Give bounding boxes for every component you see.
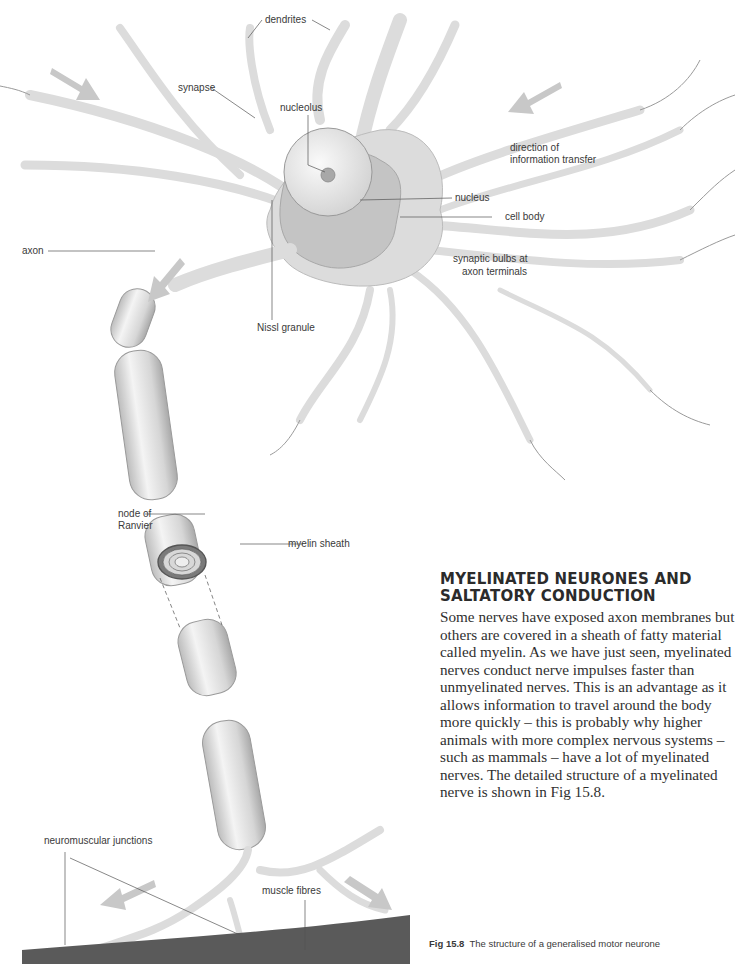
heading-line-2: SALTATORY CONDUCTION (440, 588, 692, 605)
label-synapse: synapse (178, 82, 215, 94)
label-node-of-ranvier: node of (118, 508, 151, 520)
label-dendrites: dendrites (265, 14, 306, 26)
body-paragraph: Some nerves have exposed axon membranes … (440, 608, 736, 801)
label-cell-body: cell body (505, 211, 544, 223)
label-myelin-sheath: myelin sheath (288, 538, 350, 550)
label-nissl-granule: Nissl granule (257, 322, 315, 334)
label-nucleus: nucleus (455, 192, 489, 204)
motor-neurone-diagram (0, 0, 739, 964)
figure-number: Fig 15.8 (429, 938, 464, 949)
label-muscle-fibres: muscle fibres (262, 885, 321, 897)
muscle-fibres (22, 915, 410, 964)
figure-caption-text: The structure of a generalised motor neu… (469, 938, 660, 949)
label-synaptic-bulbs: synaptic bulbs at (453, 253, 528, 265)
label-nucleolus: nucleolus (280, 102, 322, 114)
section-heading: MYELINATED NEURONES AND SALTATORY CONDUC… (440, 571, 692, 605)
label-synaptic-bulbs-2: axon terminals (462, 266, 527, 278)
nucleolus (321, 168, 335, 182)
label-neuromuscular-junctions: neuromuscular junctions (44, 835, 152, 847)
heading-line-1: MYELINATED NEURONES AND (440, 571, 692, 588)
label-direction-2: information transfer (510, 154, 596, 166)
label-direction: direction of (510, 142, 559, 154)
cut-section (158, 545, 206, 579)
label-node-of-ranvier-2: Ranvier (118, 520, 152, 532)
figure-caption: Fig 15.8 The structure of a generalised … (429, 938, 660, 949)
label-axon: axon (22, 245, 44, 257)
